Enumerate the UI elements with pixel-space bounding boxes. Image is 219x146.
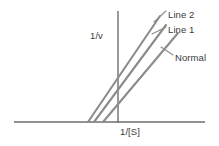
series-label-line1: Line 1 [168, 24, 194, 35]
plot-svg [0, 0, 219, 146]
series-label-normal: Normal [175, 52, 206, 63]
series-label-line2: Line 2 [168, 9, 194, 20]
lineweaver-burk-plot: Line 2 Line 1 Normal 1/v 1/[S] [0, 0, 219, 146]
leader-line-line2 [154, 11, 166, 22]
series-line-line1 [94, 25, 166, 122]
y-axis-label: 1/v [90, 30, 103, 41]
x-axis-label: 1/[S] [120, 126, 140, 137]
